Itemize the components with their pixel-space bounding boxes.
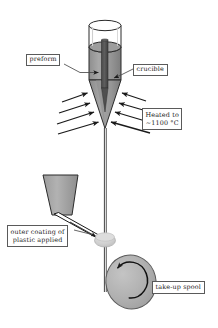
callout-crucible: crucible	[133, 64, 168, 77]
coating-die	[95, 233, 116, 247]
callout-heated-line2: ~1100 °C	[146, 119, 179, 127]
callout-heated-to-temperature: Heated to~1100 °C	[142, 108, 182, 130]
callout-coating-line2: plastic applied	[13, 236, 63, 244]
fiber-drawing-tower-diagram: preform crucible Heated to~1100 °C outer…	[0, 0, 218, 328]
callout-outer-coating: outer coating ofplastic applied	[7, 225, 68, 247]
callout-preform: preform	[26, 54, 60, 67]
diagram-canvas	[0, 0, 218, 328]
drawn-fiber-line	[104, 128, 106, 292]
callout-coating-line1: outer coating of	[11, 228, 65, 236]
coating-hopper	[43, 175, 78, 215]
callout-take-up-spool: take-up spool	[152, 281, 205, 294]
callout-heated-line1: Heated to	[146, 111, 179, 119]
heat-arrows-left	[57, 93, 99, 134]
